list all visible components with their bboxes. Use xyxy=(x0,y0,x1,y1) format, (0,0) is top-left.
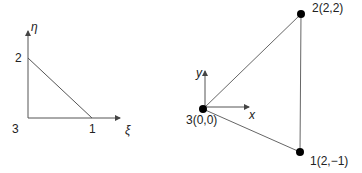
node-1-label: 1(2,−1) xyxy=(310,154,348,168)
x-axis-label: x xyxy=(248,108,256,122)
xi-axis-label: ξ xyxy=(125,123,131,137)
left-node-2-label: 2 xyxy=(15,51,22,65)
node-1-marker xyxy=(296,148,304,156)
right-diagram: y x 3(0,0) 2(2,2) 1(2,−1) xyxy=(186,1,348,168)
node-2-marker xyxy=(297,10,305,18)
node-3-label: 3(0,0) xyxy=(186,113,217,127)
node-2-label: 2(2,2) xyxy=(312,1,343,15)
hypotenuse-edge xyxy=(28,58,92,118)
edge-2-1 xyxy=(300,14,301,152)
y-axis-label: y xyxy=(195,66,203,80)
diagram-canvas: η ξ 2 3 1 y x 3(0,0) 2(2,2) 1(2,−1) xyxy=(0,0,362,173)
left-node-3-label: 3 xyxy=(12,122,19,136)
node-3-marker xyxy=(199,105,207,113)
left-node-1-label: 1 xyxy=(89,122,96,136)
edge-3-2 xyxy=(203,14,301,109)
left-diagram: η ξ 2 3 1 xyxy=(12,20,131,137)
eta-axis-label: η xyxy=(31,20,38,34)
